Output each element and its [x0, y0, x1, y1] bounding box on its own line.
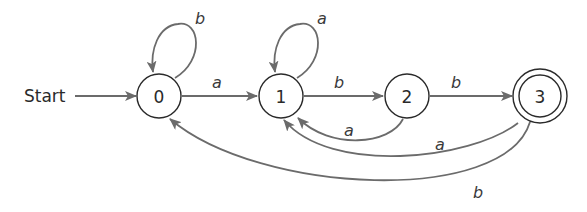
transition-label: b [334, 73, 344, 92]
transition-label: b [195, 9, 205, 28]
transition-label: a [317, 9, 327, 28]
state-label: 3 [535, 87, 546, 107]
transition-0-to-1: a [182, 73, 257, 96]
transition-label: a [212, 73, 222, 92]
state-label: 2 [402, 87, 413, 107]
transition-label: a [344, 121, 354, 140]
state-label: 1 [276, 87, 287, 107]
state-label: 0 [154, 87, 165, 107]
start-label: Start [24, 86, 66, 106]
state-0: 0 [137, 74, 181, 118]
start-indicator: Start [24, 86, 136, 106]
state-2: 2 [385, 74, 429, 118]
arrow [284, 120, 518, 156]
state-1: 1 [259, 74, 303, 118]
transition-1-to-1: a [274, 9, 327, 78]
transition-3-to-1: a [284, 120, 518, 156]
transition-label: a [435, 135, 445, 154]
self-loop-arrow [152, 24, 196, 78]
self-loop-arrow [274, 24, 318, 78]
dfa-diagram: Start b a a b a b a b 0 [0, 0, 587, 212]
transition-label: b [451, 73, 461, 92]
transition-2-to-1: a [298, 118, 403, 140]
state-3-accepting: 3 [513, 69, 567, 123]
transition-label: b [473, 183, 483, 202]
transition-0-to-0: b [152, 9, 205, 78]
transition-2-to-3: b [430, 73, 512, 96]
transition-1-to-2: b [304, 73, 383, 96]
